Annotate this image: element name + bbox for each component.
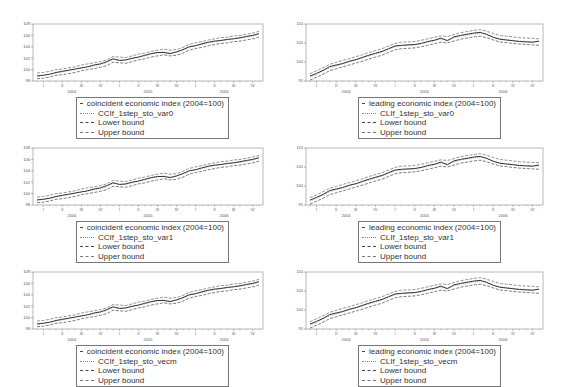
x-tick-label: II (492, 207, 494, 212)
x-year-label: 2006 (499, 213, 509, 218)
legend-item-actual: coincident economic index (2004=100) (80, 99, 224, 109)
x-year-label: 2005 (144, 89, 154, 94)
chart-panel-leading-var1: 95100105110IIIIIIIVIIIIIIIVIIIIIIIV20042… (280, 124, 561, 254)
x-tick-label: III (232, 207, 235, 212)
x-year-label: 2006 (499, 89, 509, 94)
x-tick-label: IV (175, 207, 179, 212)
x-tick-label: I (394, 331, 395, 336)
y-tick-label: 110 (297, 269, 304, 274)
legend-item-actual: leading economic index (2004=100) (362, 99, 496, 109)
x-tick-label: II (492, 83, 494, 88)
x-tick-label: II (414, 331, 416, 336)
series-line (37, 279, 259, 321)
x-tick-label: IV (452, 83, 456, 88)
x-tick-label: II (335, 331, 337, 336)
x-tick-label: I (394, 83, 395, 88)
series-line (37, 37, 259, 79)
x-tick-label: III (156, 83, 159, 88)
line-plot: 95100105110IIIIIIIVIIIIIIIVIIIIIIIV20042… (280, 124, 561, 220)
y-tick-label: 106 (23, 33, 30, 38)
x-tick-label: II (335, 207, 337, 212)
legend-item-forecast: CLIf_1step_sto_var1 (362, 233, 496, 243)
dotted-line-icon (80, 113, 94, 114)
y-tick-label: 100 (296, 307, 303, 312)
x-tick-label: II (213, 207, 215, 212)
series-line (37, 155, 259, 197)
y-tick-label: 108 (23, 269, 30, 274)
legend-item-actual: leading economic index (2004=100) (362, 223, 496, 233)
x-year-label: 2005 (144, 337, 154, 342)
x-tick-label: I (119, 207, 120, 212)
x-tick-label: I (195, 83, 196, 88)
y-tick-label: 108 (23, 21, 30, 26)
dashed-line-icon (80, 370, 94, 371)
x-tick-label: I (43, 207, 44, 212)
x-tick-label: III (232, 83, 235, 88)
x-year-label: 2004 (342, 89, 352, 94)
solid-line-icon (80, 351, 83, 352)
x-tick-label: III (232, 331, 235, 336)
x-year-label: 2004 (67, 213, 77, 218)
solid-line-icon (362, 227, 365, 228)
legend-item-actual: coincident economic index (2004=100) (80, 347, 224, 357)
x-tick-label: II (414, 207, 416, 212)
y-tick-label: 98 (26, 202, 31, 207)
dashed-line-icon (362, 380, 376, 381)
plot-frame (306, 272, 543, 329)
dotted-line-icon (80, 361, 94, 362)
x-tick-label: IV (374, 83, 378, 88)
x-tick-label: II (137, 83, 139, 88)
x-tick-label: IV (99, 331, 103, 336)
chart-panel-coincident-vecm: 98100102104106108IIIIIIIVIIIIIIIVIIIIIII… (0, 248, 280, 387)
solid-line-icon (80, 103, 83, 104)
x-tick-label: III (433, 207, 436, 212)
x-tick-label: II (61, 83, 63, 88)
x-tick-label: IV (452, 207, 456, 212)
series-line (310, 156, 539, 200)
series-line (37, 158, 259, 200)
x-tick-label: II (61, 331, 63, 336)
legend: leading economic index (2004=100) CLIf_1… (358, 345, 501, 387)
y-tick-label: 110 (297, 21, 304, 26)
x-tick-label: III (80, 331, 83, 336)
y-tick-label: 102 (23, 304, 30, 309)
x-tick-label: II (414, 83, 416, 88)
legend-item-actual: leading economic index (2004=100) (362, 347, 496, 357)
x-tick-label: I (43, 83, 44, 88)
line-plot: 98100102104106108IIIIIIIVIIIIIIIVIIIIIII… (0, 248, 280, 344)
chart-panel-leading-var0: 95100105110IIIIIIIVIIIIIIIVIIIIIIIV20042… (280, 0, 561, 130)
y-tick-label: 95 (299, 326, 304, 331)
x-tick-label: III (80, 207, 83, 212)
legend-item-forecast: CCIf_1step_sto_var0 (80, 109, 224, 119)
x-year-label: 2005 (420, 213, 430, 218)
x-tick-label: III (511, 331, 514, 336)
y-tick-label: 100 (23, 315, 30, 320)
y-tick-label: 100 (23, 67, 30, 72)
dashed-line-icon (80, 380, 94, 381)
x-year-label: 2004 (67, 337, 77, 342)
x-tick-label: I (119, 331, 120, 336)
x-tick-label: III (354, 207, 357, 212)
x-tick-label: III (156, 207, 159, 212)
x-tick-label: I (394, 207, 395, 212)
x-tick-label: II (335, 83, 337, 88)
y-tick-label: 105 (296, 288, 303, 293)
series-line (310, 32, 539, 76)
legend: coincident economic index (2004=100) CCI… (76, 345, 229, 387)
x-tick-label: IV (374, 331, 378, 336)
x-tick-label: II (61, 207, 63, 212)
x-tick-label: II (492, 331, 494, 336)
line-plot: 95100105110IIIIIIIVIIIIIIIVIIIIIIIV20042… (280, 0, 561, 96)
legend-item-lower: Lower bound (362, 366, 496, 376)
x-tick-label: IV (251, 83, 255, 88)
x-tick-label: IV (452, 331, 456, 336)
legend-item-upper: Upper bound (362, 376, 496, 386)
dotted-line-icon (80, 237, 94, 238)
x-tick-label: I (119, 83, 120, 88)
x-tick-label: IV (531, 331, 535, 336)
dotted-line-icon (362, 237, 376, 238)
y-tick-label: 104 (23, 292, 30, 297)
plot-frame (306, 24, 543, 81)
x-tick-label: I (316, 331, 317, 336)
line-plot: 95100105110IIIIIIIVIIIIIIIVIIIIIIIV20042… (280, 248, 561, 344)
